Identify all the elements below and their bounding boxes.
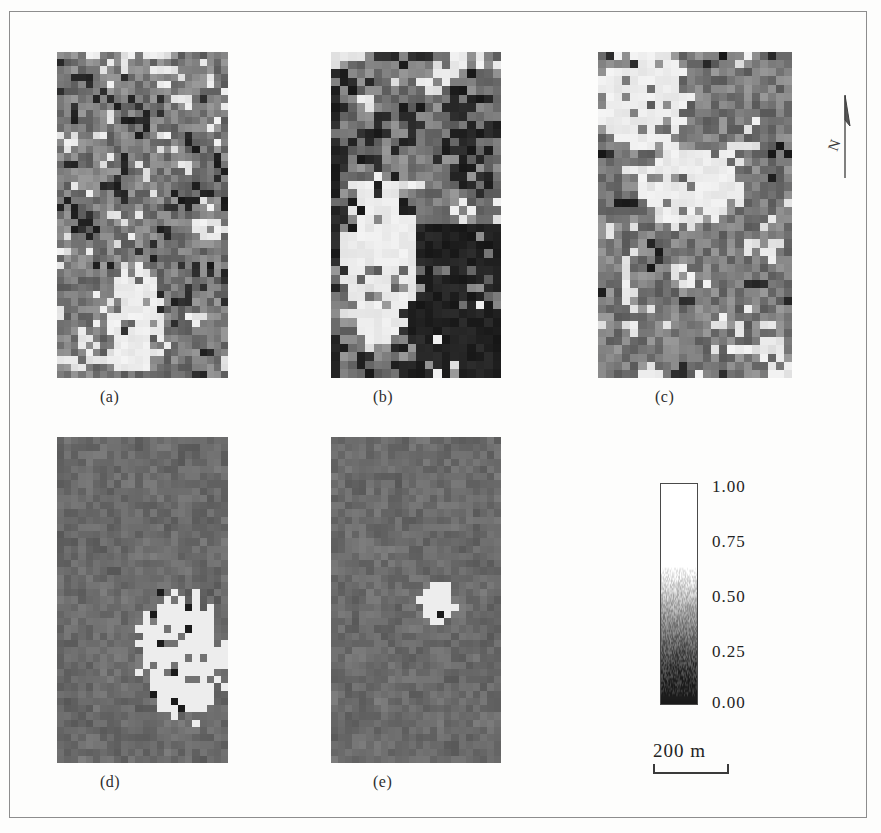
north-arrow-icon: N: [824, 92, 864, 180]
colorbar-tick-0-25: 0.25: [712, 642, 746, 662]
colorbar-tick-1-00: 1.00: [712, 477, 746, 497]
figure-root: (a) (b) (c) (d) (e) N 1.00 0.75 0.50 0.2…: [0, 0, 881, 833]
panel-label-c: (c): [655, 388, 674, 406]
raster-panel-e[interactable]: [331, 437, 501, 763]
panel-label-e: (e): [373, 773, 392, 791]
panel-label-a: (a): [100, 388, 119, 406]
scale-bar-bracket-icon: [653, 764, 729, 774]
raster-panel-a[interactable]: [57, 52, 228, 378]
scale-bar: 200 m: [653, 740, 729, 774]
colorbar-tick-0-75: 0.75: [712, 532, 746, 552]
panel-label-d: (d): [100, 773, 120, 791]
raster-panel-d[interactable]: [57, 437, 228, 763]
svg-text:N: N: [825, 137, 844, 153]
colorbar-gradient: [660, 483, 698, 705]
raster-panel-b[interactable]: [331, 52, 501, 378]
raster-panel-c[interactable]: [598, 52, 792, 378]
panel-label-b: (b): [373, 388, 393, 406]
colorbar-tick-0-00: 0.00: [712, 693, 746, 713]
scale-bar-label: 200 m: [653, 740, 729, 762]
colorbar-tick-0-50: 0.50: [712, 587, 746, 607]
